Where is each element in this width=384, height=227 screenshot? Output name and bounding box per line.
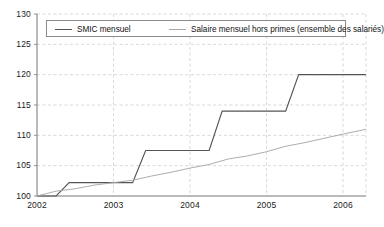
y-tick-label: 130	[5, 9, 31, 19]
series-line-smic	[37, 75, 366, 196]
y-tick-label: 110	[5, 130, 31, 140]
legend-entry-smic: SMIC mensuel	[55, 21, 131, 38]
x-tick-label: 2004	[170, 200, 210, 210]
x-tick-label: 2002	[17, 200, 57, 210]
chart-legend: SMIC mensuel Salaire mensuel hors primes…	[46, 20, 346, 37]
horizontal-gridlines	[37, 14, 366, 196]
source-note	[2, 217, 122, 226]
x-tick-label: 2006	[323, 200, 363, 210]
legend-entry-salaire: Salaire mensuel hors primes (ensemble de…	[169, 21, 384, 38]
y-tick-label: 125	[5, 39, 31, 49]
legend-line-swatch-smic	[55, 29, 72, 30]
legend-label-smic: SMIC mensuel	[77, 25, 131, 34]
data-series-layer	[37, 75, 366, 196]
vertical-gridlines	[114, 14, 366, 196]
series-line-salaire	[37, 129, 366, 196]
y-tick-label: 115	[5, 100, 31, 110]
legend-label-salaire: Salaire mensuel hors primes (ensemble de…	[191, 25, 384, 34]
legend-line-swatch-salaire	[169, 29, 186, 30]
x-tick-label: 2003	[94, 200, 134, 210]
y-tick-label: 120	[5, 69, 31, 79]
x-tick-label: 2005	[247, 200, 287, 210]
y-tick-label: 100	[5, 191, 31, 201]
y-tick-label: 105	[5, 160, 31, 170]
